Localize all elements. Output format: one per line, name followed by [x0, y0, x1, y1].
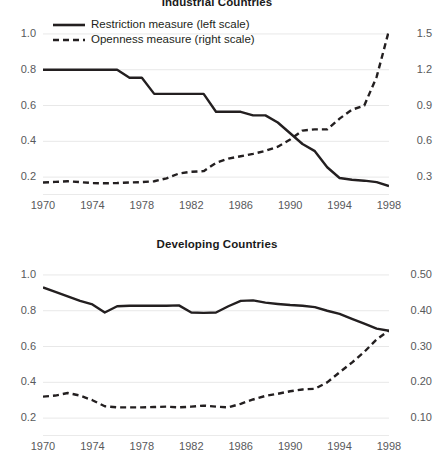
- legend-entry-restriction: Restriction measure (left scale): [52, 17, 255, 32]
- y-tick-label-left: 0.2: [8, 171, 36, 182]
- x-tick-label: 1982: [167, 441, 215, 452]
- x-axis-developing: 19701974197819821986199019941998: [0, 441, 434, 457]
- restriction-line: [43, 287, 389, 330]
- y-tick-label-left: 0.4: [8, 376, 36, 387]
- openness-line: [43, 330, 389, 407]
- y-tick-label-left: 0.2: [8, 412, 36, 423]
- y-tick-label-right: 0.30: [396, 341, 432, 352]
- x-tick-label: 1994: [316, 441, 364, 452]
- y-tick-label-right: 0.3: [396, 171, 432, 182]
- restriction-line: [43, 70, 389, 186]
- y-tick-label-left: 1.0: [8, 28, 36, 39]
- plot-svg-developing: [43, 266, 389, 436]
- y-tick-label-left: 0.4: [8, 135, 36, 146]
- x-tick-label: 1982: [167, 200, 215, 211]
- x-tick-label: 1986: [217, 441, 265, 452]
- plot-area-industrial: [43, 25, 389, 195]
- plot-area-developing: [43, 266, 389, 436]
- y-tick-label-right: 0.50: [396, 269, 432, 280]
- legend-entry-openness: Openness measure (right scale): [52, 32, 255, 47]
- x-tick-label: 1998: [365, 441, 413, 452]
- y-tick-label-right: 0.10: [396, 412, 432, 423]
- x-tick-label: 1978: [118, 441, 166, 452]
- dashed-line-swatch-icon: [52, 35, 86, 45]
- legend-label-restriction: Restriction measure (left scale): [91, 18, 250, 31]
- chart-title-developing: Developing Countries: [0, 238, 434, 250]
- x-axis-industrial: 19701974197819821986199019941998: [0, 200, 434, 216]
- y-tick-label-right: 1.5: [396, 28, 432, 39]
- x-tick-label: 1994: [316, 200, 364, 211]
- y-tick-label-left: 0.6: [8, 100, 36, 111]
- openness-line: [43, 30, 389, 183]
- y-tick-label-left: 0.6: [8, 341, 36, 352]
- y-tick-label-left: 0.8: [8, 305, 36, 316]
- y-tick-label-right: 0.20: [396, 376, 432, 387]
- x-tick-label: 1978: [118, 200, 166, 211]
- solid-line-swatch-icon: [52, 20, 86, 30]
- legend-label-openness: Openness measure (right scale): [91, 33, 255, 46]
- y-tick-label-right: 0.9: [396, 100, 432, 111]
- y-tick-label-left: 1.0: [8, 269, 36, 280]
- x-tick-label: 1998: [365, 200, 413, 211]
- y-tick-label-right: 0.40: [396, 305, 432, 316]
- x-tick-label: 1990: [266, 441, 314, 452]
- figure-root: Industrial Countries 1.00.80.60.40.2 1.5…: [0, 0, 434, 470]
- chart-title-industrial: Industrial Countries: [0, 0, 434, 8]
- chart-legend: Restriction measure (left scale) Opennes…: [52, 17, 255, 47]
- x-tick-label: 1990: [266, 200, 314, 211]
- x-tick-label: 1970: [19, 441, 67, 452]
- chart-panel-developing: Developing Countries 1.00.80.60.40.2 0.5…: [0, 228, 434, 470]
- y-tick-label-right: 0.6: [396, 135, 432, 146]
- y-tick-label-right: 1.2: [396, 64, 432, 75]
- plot-svg-industrial: [43, 25, 389, 195]
- x-tick-label: 1974: [68, 441, 116, 452]
- y-tick-label-left: 0.8: [8, 64, 36, 75]
- chart-panel-industrial: Industrial Countries 1.00.80.60.40.2 1.5…: [0, 0, 434, 228]
- x-tick-label: 1974: [68, 200, 116, 211]
- x-tick-label: 1986: [217, 200, 265, 211]
- x-tick-label: 1970: [19, 200, 67, 211]
